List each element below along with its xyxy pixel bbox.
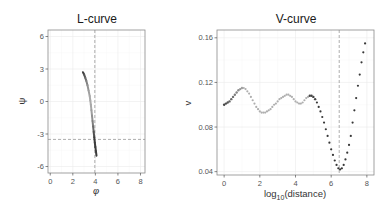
- y-tick-label: 3: [40, 65, 44, 74]
- x-tick-label: 2: [71, 177, 75, 186]
- data-point: [252, 99, 254, 101]
- data-point: [275, 103, 277, 105]
- l-curve-panel: L-curve 02468-6-3036 φ ψ: [16, 12, 145, 196]
- y-tick-label: -3: [37, 130, 44, 139]
- data-point: [234, 93, 236, 95]
- data-point: [318, 106, 320, 108]
- l-curve-y-axis-label: ψ: [16, 97, 27, 104]
- x-tick-label: 8: [138, 177, 142, 186]
- data-point: [228, 100, 230, 102]
- data-point: [291, 96, 293, 98]
- data-point: [253, 103, 255, 105]
- data-point: [319, 110, 321, 112]
- data-point: [330, 148, 332, 150]
- y-tick-label: 0.04: [198, 167, 213, 176]
- v-curve-panel: V-curve 024680.040.080.120.16 log10(dist…: [182, 12, 374, 201]
- v-curve-y-axis-label: v: [182, 100, 193, 105]
- data-point: [360, 61, 362, 63]
- data-point: [246, 90, 248, 92]
- data-point: [314, 98, 316, 100]
- data-point: [323, 121, 325, 123]
- data-point: [348, 144, 350, 146]
- data-point: [334, 159, 336, 161]
- data-point: [257, 108, 259, 110]
- data-point: [303, 99, 305, 101]
- y-tick-label: 0.16: [198, 33, 213, 42]
- data-point: [350, 135, 352, 137]
- data-point: [250, 96, 252, 98]
- data-point: [293, 98, 295, 100]
- x-tick-label: 6: [116, 177, 120, 186]
- y-tick-label: 0.08: [198, 123, 213, 132]
- y-tick-label: 0.12: [198, 78, 213, 87]
- data-point: [271, 106, 273, 108]
- data-point: [248, 92, 250, 94]
- data-point: [335, 164, 337, 166]
- x-tick-label: 4: [293, 179, 297, 188]
- data-point: [359, 74, 361, 76]
- y-tick-label: 0: [40, 97, 44, 106]
- data-point: [235, 91, 237, 93]
- data-point: [328, 142, 330, 144]
- data-point: [316, 101, 318, 103]
- data-point: [357, 85, 359, 87]
- x-tick-label: 2: [258, 179, 262, 188]
- data-point: [302, 101, 304, 103]
- v-curve-title: V-curve: [276, 12, 317, 26]
- x-tick-label: 6: [329, 179, 333, 188]
- data-point: [232, 96, 234, 98]
- data-point: [312, 96, 314, 98]
- l-curve-x-axis-label: φ: [93, 185, 99, 196]
- v-curve-grid: [217, 30, 374, 175]
- data-point: [255, 106, 257, 108]
- data-point: [244, 88, 246, 90]
- data-point: [353, 109, 355, 111]
- l-curve-axis-ticks: 02468-6-3036: [37, 32, 142, 185]
- x-tick-label: 8: [365, 179, 369, 188]
- data-point: [351, 121, 353, 123]
- v-curve-x-axis-label: log10(distance): [264, 188, 326, 201]
- data-point: [344, 158, 346, 160]
- data-point: [355, 97, 357, 99]
- data-point: [269, 108, 271, 110]
- y-tick-label: -6: [37, 162, 44, 171]
- x-tick-label: 0: [48, 177, 52, 186]
- v-curve-series: [223, 42, 366, 170]
- data-point: [364, 42, 366, 44]
- y-tick-label: 6: [40, 32, 44, 41]
- data-point: [332, 154, 334, 156]
- chart-canvas: L-curve 02468-6-3036 φ ψ V-curve 024680.…: [0, 0, 391, 211]
- data-point: [341, 167, 343, 169]
- data-point: [277, 100, 279, 102]
- data-point: [346, 152, 348, 154]
- data-point: [327, 135, 329, 137]
- data-point: [230, 98, 232, 100]
- data-point: [325, 128, 327, 130]
- x-tick-label: 0: [222, 179, 226, 188]
- data-point: [362, 51, 364, 53]
- data-point: [343, 164, 345, 166]
- data-point: [321, 116, 323, 118]
- l-curve-series: [83, 72, 97, 155]
- l-curve-title: L-curve: [77, 12, 117, 26]
